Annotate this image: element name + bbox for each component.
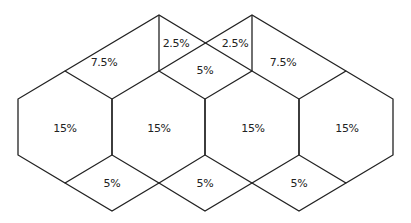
label-top-right-trapezoid: 7.5%: [270, 56, 297, 69]
label-hexagon-3: 15%: [241, 122, 265, 135]
label-top-right-triangle: 2.5%: [222, 37, 249, 50]
label-hexagon-2: 15%: [147, 122, 171, 135]
label-hexagon-4: 15%: [335, 122, 359, 135]
label-top-left-trapezoid: 7.5%: [91, 56, 118, 69]
label-bottom-diamond-2: 5%: [197, 177, 214, 190]
tessellation-diagram: [0, 0, 411, 223]
label-center-diamond: 5%: [197, 64, 214, 77]
label-top-left-triangle: 2.5%: [163, 37, 190, 50]
label-bottom-diamond-3: 5%: [291, 177, 308, 190]
label-hexagon-1: 15%: [53, 122, 77, 135]
label-bottom-diamond-1: 5%: [104, 177, 121, 190]
